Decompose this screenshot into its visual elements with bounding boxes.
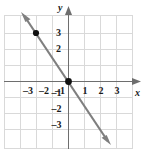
ytick-label-neg3: –3 [48, 120, 65, 130]
ytick-label-2: 2 [52, 44, 65, 54]
graph-canvas [0, 0, 146, 151]
data-point-neg2-3 [33, 30, 39, 36]
xtick-label-1: 1 [77, 86, 93, 96]
xtick-label-3: 3 [109, 86, 125, 96]
y-axis-arrowhead [65, 6, 72, 15]
xtick-label-neg3: –3 [20, 86, 36, 96]
xtick-label-2: 2 [93, 86, 109, 96]
line-arrowhead-upper-left [21, 12, 31, 22]
ytick-label-neg1: –1 [48, 88, 65, 98]
ytick-label-neg2: –2 [48, 104, 65, 114]
x-axis-label: x [135, 88, 140, 98]
ytick-label-3: 3 [52, 28, 65, 38]
line-arrowhead-lower-right [102, 135, 111, 145]
x-axis-arrowhead [132, 78, 141, 85]
x-axis [4, 78, 141, 85]
y-axis-label: y [58, 3, 62, 13]
coordinate-graph-figure: –3 –2 –1 1 2 3 3 2 –1 –2 –3 y x [0, 0, 146, 151]
data-point-origin [65, 78, 72, 85]
